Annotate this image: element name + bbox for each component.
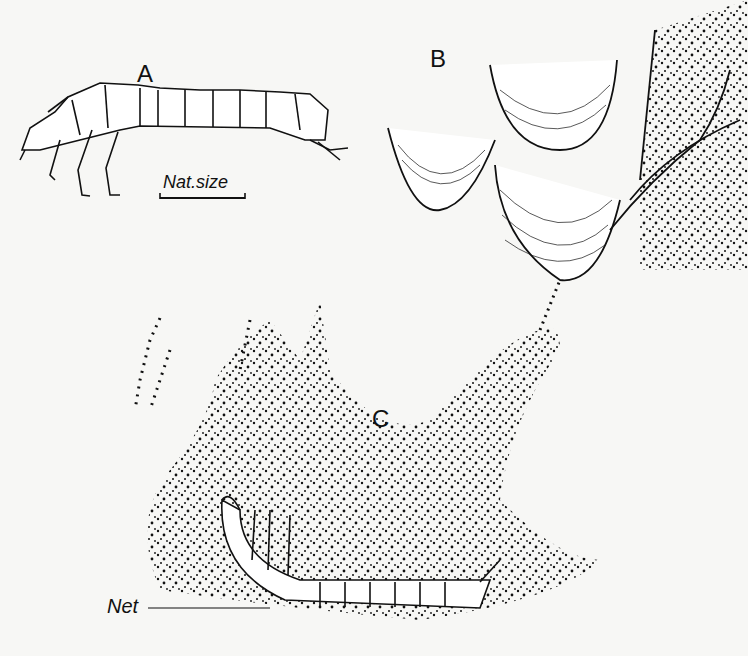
scale-label: Nat.size — [163, 172, 228, 193]
net-callout-label: Net — [107, 595, 138, 618]
panel-b-cups — [388, 0, 748, 280]
panel-b-label: B — [430, 45, 446, 73]
figure-illustration — [0, 0, 748, 656]
panel-c-label: C — [372, 405, 389, 433]
panel-a-label: A — [137, 60, 153, 88]
panel-c-net-stipple — [135, 280, 600, 620]
